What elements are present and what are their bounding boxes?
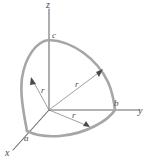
arc-c-to-b [49,40,115,110]
octant-arcs-group [21,40,115,136]
x-intercept-label-a: a [24,134,29,143]
radius-line-yz [49,71,101,110]
radius-label-yz: r [75,80,79,89]
y-axis-label: y [138,106,142,116]
z-intercept-label-c: c [52,31,56,40]
radius-arrowhead-xz [30,77,36,85]
radius-label-xy: r [72,111,76,120]
arc-a-to-b [27,110,115,136]
radius-label-xz: r [41,86,45,95]
y-intercept-label-b: b [114,99,119,108]
figure-canvas: z y x c b a r r r [0,0,148,164]
radius-line-xy [49,110,88,126]
x-axis-label: x [5,148,9,158]
x-axis-line [13,110,49,150]
figure-vector-graphic [0,0,148,164]
z-axis-label: z [46,0,50,10]
